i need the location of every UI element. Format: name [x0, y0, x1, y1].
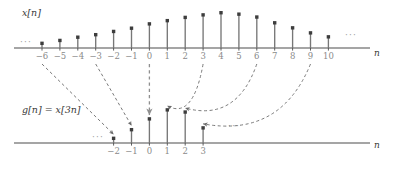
- tick-label: 0: [147, 51, 152, 61]
- upper-right-ellipsis: ···: [345, 30, 357, 40]
- tick-label: 5: [236, 51, 241, 61]
- tick-label: 8: [290, 51, 295, 61]
- tick-label: 7: [272, 51, 277, 61]
- stem-marker: [148, 22, 151, 25]
- stem-marker: [58, 39, 61, 42]
- stem-marker: [166, 19, 169, 22]
- tick-label: −1: [125, 51, 138, 61]
- stem-marker: [273, 21, 276, 24]
- stem-marker: [201, 126, 204, 129]
- tick-label: 2: [182, 51, 187, 61]
- lower-signal-label: g[n] = x[3n]: [22, 104, 81, 115]
- stem-marker: [237, 12, 240, 15]
- tick-label: 2: [182, 146, 187, 156]
- tick-label: 3: [200, 51, 205, 61]
- tick-label: −2: [107, 146, 120, 156]
- stem-marker: [130, 128, 133, 131]
- stem-marker: [112, 30, 115, 33]
- tick-label: 1: [165, 51, 170, 61]
- lower-axis-label: n: [374, 140, 380, 150]
- tick-label: 9: [308, 51, 313, 61]
- tick-label: 0: [147, 146, 152, 156]
- tick-label: −6: [36, 51, 49, 61]
- mapping-arrow: [42, 64, 114, 134]
- stem-marker: [291, 26, 294, 29]
- upper-stem-plot: −6−5−4−3−2−1012345678910······: [14, 11, 370, 61]
- tick-label: −5: [54, 51, 67, 61]
- stem-marker: [112, 137, 115, 140]
- stem-marker: [94, 33, 97, 36]
- upper-signal-label: x[n]: [22, 7, 41, 18]
- tick-label: 6: [254, 51, 259, 61]
- stem-marker: [219, 11, 222, 14]
- stem-marker: [184, 16, 187, 19]
- signal-downsampling-figure: −6−5−4−3−2−1012345678910······ −2−10123·…: [0, 0, 397, 174]
- stem-marker: [201, 13, 204, 16]
- mapping-arrow: [96, 64, 132, 126]
- stem-marker: [76, 36, 79, 39]
- mapping-arrows: [42, 64, 311, 134]
- upper-axis-label: n: [374, 48, 380, 58]
- tick-label: 4: [218, 51, 223, 61]
- lower-left-ellipsis: ···: [92, 132, 104, 142]
- lower-stem-plot: −2−10123······: [14, 108, 370, 156]
- tick-label: −4: [72, 51, 85, 61]
- upper-left-ellipsis: ···: [20, 37, 32, 47]
- tick-label: −2: [107, 51, 120, 61]
- tick-label: 3: [200, 146, 205, 156]
- tick-label: −3: [89, 51, 102, 61]
- stem-marker: [40, 42, 43, 45]
- mapping-arrow: [167, 64, 203, 109]
- stem-marker: [309, 31, 312, 34]
- mapping-arrow: [185, 64, 257, 111]
- stem-marker: [130, 27, 133, 30]
- stem-marker: [148, 117, 151, 120]
- stem-marker: [255, 15, 258, 18]
- stem-marker: [184, 110, 187, 113]
- stem-marker: [166, 108, 169, 111]
- figure-canvas: −6−5−4−3−2−1012345678910······ −2−10123·…: [0, 0, 397, 174]
- mapping-arrow: [203, 64, 310, 126]
- tick-label: 10: [323, 51, 334, 61]
- stem-marker: [327, 35, 330, 38]
- tick-label: 1: [165, 146, 170, 156]
- tick-label: −1: [125, 146, 138, 156]
